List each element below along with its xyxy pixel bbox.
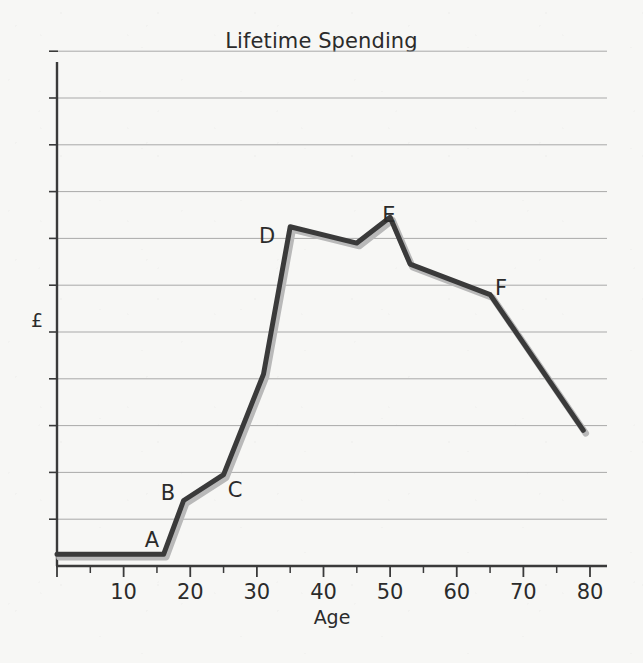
- x-axis-tick-labels: 1020304050607080: [110, 580, 603, 604]
- x-axis-tick-label: 40: [310, 580, 337, 604]
- data-point-label-d: D: [259, 224, 275, 248]
- x-axis-tick-label: 80: [577, 580, 604, 604]
- series-line: [57, 217, 583, 554]
- data-point-label-a: A: [145, 528, 160, 552]
- data-point-label-f: F: [495, 276, 507, 300]
- x-axis-tick-label: 60: [443, 580, 470, 604]
- line-chart: 1020304050607080 ABCDEF £ Age: [0, 0, 643, 663]
- series-line-shadow: [60, 220, 586, 557]
- x-axis-tick-label: 50: [377, 580, 404, 604]
- x-axis-title: Age: [314, 606, 351, 628]
- x-axis-tick-label: 30: [244, 580, 271, 604]
- x-axis-tick-label: 70: [510, 580, 537, 604]
- y-axis-title: £: [31, 309, 43, 331]
- data-point-label-c: C: [228, 478, 243, 502]
- gridlines-group: [58, 51, 607, 519]
- x-axis-tick-label: 20: [177, 580, 204, 604]
- axes-group: [56, 62, 607, 566]
- data-point-labels: ABCDEF: [145, 203, 507, 552]
- data-point-label-e: E: [382, 203, 395, 227]
- x-axis-tick-label: 10: [110, 580, 137, 604]
- x-axis-ticks: [57, 566, 590, 577]
- data-point-label-b: B: [161, 481, 175, 505]
- chart-page: Lifetime Spending 1020304050607080 ABCDE…: [0, 0, 643, 663]
